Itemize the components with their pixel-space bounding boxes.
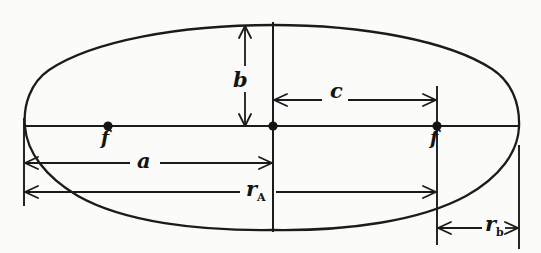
center-point bbox=[268, 121, 277, 130]
diagram-canvas bbox=[0, 0, 541, 253]
label-left-focus-f: f bbox=[101, 128, 109, 147]
label-semi-minor-axis-b: b bbox=[233, 69, 248, 90]
ellipse-geometry-diagram: b c a f f rA rb bbox=[0, 0, 541, 253]
label-apoapsis-radius-ra: rA bbox=[246, 178, 266, 199]
label-periapsis-radius-rb: rb bbox=[485, 213, 504, 234]
dimension-periapsis-radius-rb bbox=[438, 222, 518, 234]
label-semi-major-axis-a: a bbox=[137, 150, 151, 171]
label-ra-subscript: A bbox=[257, 191, 266, 204]
dimension-apoapsis-radius-ra bbox=[25, 186, 436, 198]
label-focal-distance-c: c bbox=[330, 80, 343, 101]
dimension-focal-distance-c bbox=[274, 94, 436, 106]
label-rb-subscript: b bbox=[496, 226, 504, 239]
label-rb-base: r bbox=[485, 211, 496, 236]
label-right-focus-f: f bbox=[430, 128, 438, 147]
label-ra-base: r bbox=[246, 176, 257, 201]
